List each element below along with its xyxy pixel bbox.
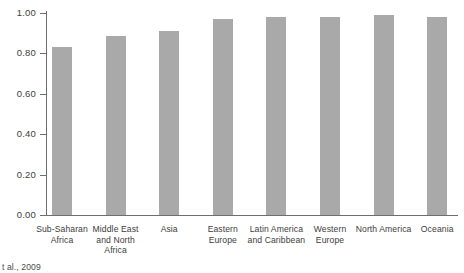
- y-tick-mark: [40, 13, 47, 14]
- y-tick-mark: [40, 215, 47, 216]
- y-tick-label: 1.00: [0, 7, 36, 18]
- bar: [159, 31, 179, 215]
- bar: [320, 17, 340, 215]
- x-category-label: Oceania: [398, 224, 464, 235]
- source-note: t al., 2009: [2, 262, 41, 272]
- bar: [266, 17, 286, 215]
- bar: [427, 17, 447, 215]
- y-tick-label: 0.60: [0, 88, 36, 99]
- bar-chart-figure: 1.000.800.600.400.200.00 Sub-SaharanAfri…: [0, 0, 464, 273]
- y-tick-label: 0.20: [0, 169, 36, 180]
- bar: [213, 19, 233, 215]
- y-tick-mark: [40, 175, 47, 176]
- bar: [52, 47, 72, 215]
- bar: [374, 15, 394, 215]
- x-axis-line: [46, 215, 458, 216]
- y-tick-label: 0.80: [0, 47, 36, 58]
- y-tick-mark: [40, 94, 47, 95]
- y-tick-mark: [40, 134, 47, 135]
- y-tick-label: 0.00: [0, 209, 36, 220]
- y-tick-label: 0.40: [0, 128, 36, 139]
- bar: [106, 36, 126, 215]
- y-axis-line: [46, 11, 47, 216]
- y-tick-mark: [40, 53, 47, 54]
